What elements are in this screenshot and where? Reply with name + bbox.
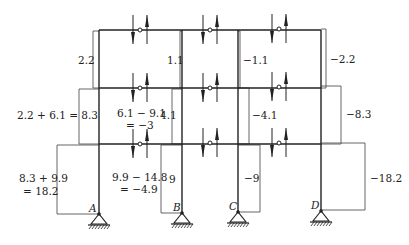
label-top-D: −2.2: [330, 53, 356, 65]
label-bot-D: −18.2: [370, 172, 402, 184]
label-mid-C: −4.1: [252, 109, 278, 121]
frame-diagram: A B C D 2.2 1.1 −1.1 −2.2 2.2 + 6.1 = 8.…: [0, 0, 409, 245]
label-bot-A-line2: = 18.2: [23, 185, 59, 197]
diagram-mid-D: [321, 86, 341, 144]
label-bot-B-line1: 9.9 − 14.8: [112, 171, 168, 183]
pin-support-icon-D: [310, 209, 332, 226]
beam-shear-arrows: [131, 14, 288, 158]
diagram-mid-C: [238, 88, 249, 144]
label-top-A: 2.2: [78, 54, 95, 66]
label-bot-A-line1: 8.3 + 9.9: [19, 172, 68, 184]
support-label-B: B: [172, 201, 181, 213]
label-mid-B-right: 4.1: [160, 109, 177, 121]
axial-force-diagrams: [57, 29, 365, 214]
label-bot-C: −9: [244, 172, 259, 184]
label-bot-B-line2: = −4.9: [120, 183, 158, 195]
supports: [88, 209, 332, 229]
hinge-arrows-bot-BC: [201, 128, 219, 157]
label-mid-D: −8.3: [346, 108, 372, 120]
pin-support-icon-B: [171, 211, 193, 228]
hinge-arrows-top-CD: [270, 14, 288, 43]
diagram-bot-D: [321, 143, 365, 210]
hinge-arrows-bot-CD: [270, 128, 288, 157]
label-bot-B-right: 9: [169, 173, 176, 185]
support-label-A: A: [88, 202, 97, 214]
diagram-top-D: [321, 29, 326, 88]
label-top-C: −1.1: [243, 54, 269, 66]
pin-support-icon-C: [227, 210, 249, 227]
support-label-C: C: [229, 200, 237, 212]
support-label-D: D: [310, 199, 320, 211]
label-mid-A: 2.2 + 6.1 = 8.3: [17, 109, 98, 121]
label-top-B: 1.1: [167, 54, 184, 66]
label-mid-B-line2: = −3: [126, 119, 154, 131]
pin-support-icon-A: [88, 212, 110, 229]
label-mid-B-line1: 6.1 − 9.1: [117, 107, 166, 119]
hinge-arrows-mid-CD: [270, 72, 288, 101]
